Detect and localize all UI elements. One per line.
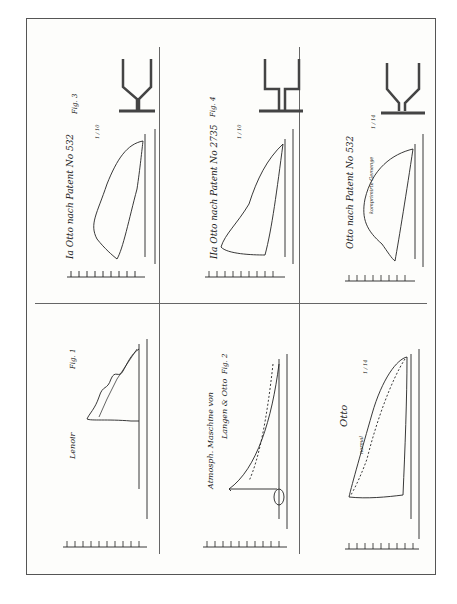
title-fig1: Lenoir: [68, 431, 77, 460]
fig-label-fig4: Fig. 4: [209, 97, 217, 118]
subtitle-otto-532: komprimirte Gemenge: [368, 157, 375, 214]
title-fig3: Ia Otto nach Patent No 532: [65, 134, 75, 260]
scale-label-fig3: 1 / 10: [94, 124, 100, 139]
title-otto-532: Otto nach Patent No 532: [345, 135, 355, 249]
tick-marks: [67, 271, 413, 549]
fig-label-fig2: Fig. 2: [221, 353, 229, 375]
scale-label-fig4: 1 / 10: [236, 124, 242, 139]
diagram-plate: Ia Otto nach Patent No 532 Fig. 3 1 / 10…: [26, 18, 436, 575]
y-axis-fig3: [71, 271, 135, 277]
title-fig4: IIa Otto nach Patent No 2735: [209, 124, 219, 260]
subtitle-otto-normal: normal: [358, 436, 364, 454]
nozzle-icon-fig4: [259, 59, 303, 111]
nozzle-icon-fig3: [119, 59, 155, 111]
title-fig2-line1: Atmosph. Maschine von: [206, 392, 215, 490]
fig-label-fig1: Fig. 1: [69, 349, 77, 370]
indicator-diagrams: Ia Otto nach Patent No 532 Fig. 3 1 / 10…: [27, 19, 435, 574]
scale-label-otto-532: 1 / 14: [370, 115, 376, 129]
panel-otto-532: [345, 63, 425, 281]
title-otto-normal: Otto: [338, 405, 349, 427]
fig-label-fig3: Fig. 3: [71, 93, 79, 115]
panel-otto-normal: [345, 349, 419, 549]
panel-fig4: [205, 59, 303, 277]
panel-fig3: [67, 59, 155, 277]
scale-label-otto-normal: 1 / 14: [362, 360, 368, 374]
title-fig2-line2: Langen & Otto: [220, 379, 229, 440]
panel-fig2-atmospheric: [203, 354, 287, 547]
nozzle-icon-otto-532: [381, 63, 425, 113]
